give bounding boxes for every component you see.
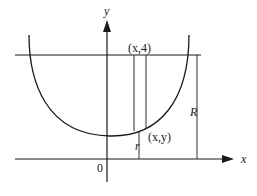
y-axis <box>103 20 111 182</box>
y-axis-label: y <box>103 4 110 18</box>
point-x4-label: (x,4) <box>128 41 151 55</box>
r-label: r <box>135 139 140 153</box>
point-xy-label: (x,y) <box>148 130 171 144</box>
y-axis-arrow-icon <box>103 20 111 32</box>
diagram-canvas: y x 0 (x,4) (x,y) r R <box>0 0 257 196</box>
x-axis-arrow-icon <box>222 155 234 163</box>
R-label: R <box>189 105 198 119</box>
x-axis <box>15 155 234 163</box>
x-axis-label: x <box>240 152 247 166</box>
u-curve <box>29 35 189 136</box>
diagram-svg: y x 0 (x,4) (x,y) r R <box>0 0 257 196</box>
origin-label: 0 <box>97 161 103 175</box>
